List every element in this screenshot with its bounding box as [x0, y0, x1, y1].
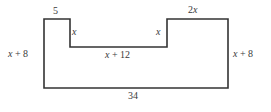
label-left-side-variable: x	[8, 48, 12, 59]
label-inner-right-depth: x	[156, 26, 160, 37]
label-notch-floor-operator: +	[112, 49, 118, 60]
label-bottom-side: 34	[128, 90, 138, 101]
label-left-side-operator: +	[15, 48, 21, 59]
label-notch-floor: x + 12	[105, 49, 130, 60]
label-inner-left-depth: x	[72, 26, 76, 37]
label-left-side: x + 8	[8, 48, 28, 59]
label-right-side-variable: x	[233, 48, 237, 59]
label-right-side: x + 8	[233, 48, 253, 59]
label-top-right-variable: x	[193, 4, 197, 15]
label-inner-right-variable: x	[156, 26, 160, 37]
label-inner-left-variable: x	[72, 26, 76, 37]
label-left-side-constant: 8	[23, 48, 28, 59]
label-top-right-step: 2x	[188, 4, 197, 15]
label-notch-floor-variable: x	[105, 49, 109, 60]
label-notch-floor-constant: 12	[120, 49, 130, 60]
label-right-side-operator: +	[240, 48, 246, 59]
label-top-left-step: 5	[53, 5, 58, 16]
label-right-side-constant: 8	[248, 48, 253, 59]
geometry-figure: 5 2x x x x + 12 x + 8 x + 8 34	[0, 0, 271, 112]
